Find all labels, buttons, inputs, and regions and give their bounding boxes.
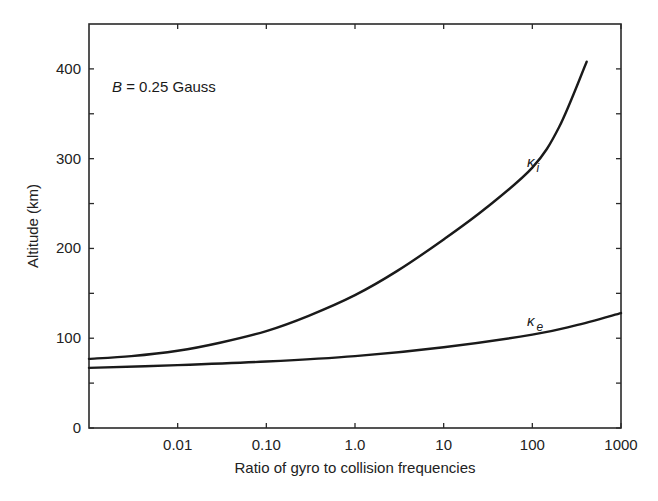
series-label-symbol: κ [527,153,536,170]
y-axis: 0100200300400 [56,60,621,436]
x-tick-label: 100 [520,436,545,453]
y-tick-label: 400 [56,60,81,77]
series-kappa-e-label: κe [527,312,544,334]
x-tick-label: 10 [435,436,452,453]
x-tick-label: 0.01 [163,436,192,453]
y-axis-title: Altitude (km) [24,184,41,268]
x-axis: 0.010.101.0101001000 [163,24,638,453]
x-axis-title: Ratio of gyro to collision frequencies [235,459,476,476]
x-tick-label: 0.10 [252,436,281,453]
series-kappa-i-line [89,62,587,359]
chart: 0.010.101.0101001000 0100200300400 κiκe … [0,0,658,501]
x-tick-label: 1.0 [345,436,366,453]
y-tick-label: 300 [56,150,81,167]
y-tick-label: 100 [56,329,81,346]
series-layer: κiκe [89,62,621,368]
field-strength-annotation: B = 0.25 Gauss [112,78,216,95]
series-label-subscript: i [537,161,540,175]
series-label-subscript: e [537,320,544,334]
series-label-symbol: κ [527,312,536,329]
x-tick-label: 1000 [604,436,637,453]
annotation-text: = 0.25 Gauss [122,78,216,95]
y-tick-label: 0 [73,419,81,436]
y-tick-label: 200 [56,239,81,256]
annotation-variable: B [112,78,122,95]
